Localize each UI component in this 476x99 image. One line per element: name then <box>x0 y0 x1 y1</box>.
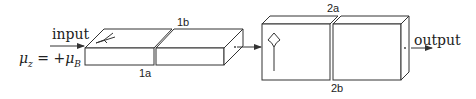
magnetic-moment-equation: μz = +μB <box>19 50 81 69</box>
equation-rhs-subscript: B <box>74 59 81 69</box>
block-1 <box>85 29 243 65</box>
block-2-right-front-face <box>333 24 401 80</box>
block-2b-label: 2b <box>331 82 343 94</box>
block-1-output-dot <box>234 46 236 48</box>
input-label: input <box>52 26 89 42</box>
equation-lhs-symbol: μ <box>19 50 28 66</box>
block-2-left-front-face <box>262 24 330 80</box>
block-2-left-top-face <box>262 16 338 24</box>
block-1a-label: 1a <box>139 67 151 79</box>
block-2-output-dot <box>404 47 406 49</box>
equation-rhs-symbol: μ <box>65 50 74 66</box>
block-2 <box>262 16 409 80</box>
equation-relation: = + <box>33 50 65 66</box>
block-1b-label: 1b <box>177 16 189 28</box>
output-label: output <box>414 32 461 48</box>
block-1b-front-face <box>156 48 224 65</box>
block-1a-front-face <box>85 48 154 65</box>
block-2-right-top-face <box>333 16 409 24</box>
block-2a-label: 2a <box>327 2 339 14</box>
